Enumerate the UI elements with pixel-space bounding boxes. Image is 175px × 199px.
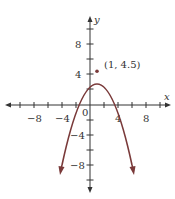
origin-label: 0	[82, 107, 88, 118]
vertex-label: (1, 4.5)	[104, 59, 141, 70]
parabola-graph: y x −8 −4 0 4 8 8 4 −4 −8 (1, 4.5)	[0, 0, 175, 199]
x-axis-label: x	[164, 91, 170, 102]
y-axis-down-arrow-icon	[88, 187, 93, 193]
parabola-curve	[62, 84, 132, 165]
x-tick-label-neg8: −8	[27, 113, 42, 124]
x-axis-left-arrow-icon	[5, 103, 11, 108]
y-tick-label-neg4: −4	[70, 130, 85, 141]
x-axis-right-arrow-icon	[165, 103, 171, 108]
y-axis-label: y	[93, 14, 100, 25]
y-tick-label-8: 8	[75, 39, 81, 50]
x-tick-label-8: 8	[143, 113, 149, 124]
y-tick-label-neg8: −8	[70, 160, 85, 171]
y-axis-up-arrow-icon	[88, 16, 93, 22]
y-tick-label-4: 4	[75, 69, 81, 80]
x-tick-label-neg4: −4	[55, 113, 70, 124]
vertex-point	[95, 69, 99, 73]
